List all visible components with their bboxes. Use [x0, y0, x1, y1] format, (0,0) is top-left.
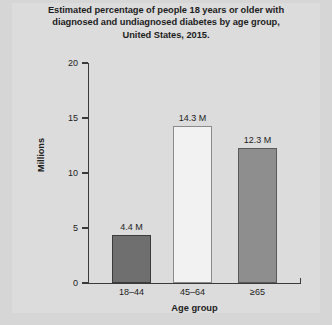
bar-65-plus[interactable] — [238, 148, 277, 283]
bar-value-18-44: 4.4 M — [97, 222, 167, 232]
y-axis-label: Millions — [36, 110, 46, 200]
y-tick-10 — [82, 172, 88, 173]
y-tick-label-5: 5 — [42, 223, 78, 233]
chart-title-line-1: Estimated percentage of people 18 years … — [12, 4, 320, 16]
y-tick-5 — [82, 227, 88, 228]
bar-18-44[interactable] — [112, 235, 151, 283]
y-tick-20 — [82, 62, 88, 63]
y-tick-0 — [82, 282, 88, 283]
chart-title: Estimated percentage of people 18 years … — [12, 4, 320, 41]
y-tick-label-15: 15 — [42, 113, 78, 123]
bar-45-64[interactable] — [173, 126, 212, 283]
y-tick-label-20: 20 — [42, 58, 78, 68]
y-tick-label-0: 0 — [42, 278, 78, 288]
chart-title-line-3: United States, 2015. — [12, 29, 320, 41]
y-tick-15 — [82, 117, 88, 118]
x-axis-label: Age group — [88, 303, 301, 313]
x-axis-end-tick — [300, 278, 301, 284]
x-tick-label-45-64: 45–64 — [158, 287, 228, 297]
bar-value-65-plus: 12.3 M — [223, 135, 293, 145]
x-tick-label-65-plus: ≥65 — [223, 287, 293, 297]
chart-title-line-2: diagnosed and undiagnosed diabetes by ag… — [12, 16, 320, 28]
x-tick-label-18-44: 18–44 — [97, 287, 167, 297]
y-tick-label-10: 10 — [42, 168, 78, 178]
y-axis-line — [88, 63, 89, 284]
bar-value-45-64: 14.3 M — [158, 113, 228, 123]
chart-figure: Estimated percentage of people 18 years … — [0, 0, 332, 325]
x-axis-line — [88, 283, 301, 284]
